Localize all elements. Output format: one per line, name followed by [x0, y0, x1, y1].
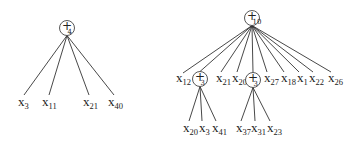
variable-index: 21 [90, 101, 99, 111]
tree-edge [24, 36, 67, 96]
variable-index: 3 [206, 127, 210, 137]
operator-arity: 3 [201, 79, 205, 87]
root-operator-node: +10 [245, 9, 262, 26]
variable-index: 1 [304, 77, 308, 87]
tree-edge [252, 26, 284, 73]
leaf-variable: x40 [108, 94, 123, 111]
variable-index: 41 [219, 127, 228, 137]
leaf-variable: x21 [216, 70, 231, 87]
variable-index: 11 [49, 101, 57, 111]
leaf-variable: x20 [232, 70, 247, 87]
tree-edge [67, 36, 89, 96]
leaf-variable: x41 [212, 120, 227, 137]
tree-edge [200, 87, 202, 122]
variable-index: 22 [316, 77, 325, 87]
variable-index: 18 [288, 77, 297, 87]
tree-edge [200, 87, 216, 122]
variable-index: 26 [335, 77, 344, 87]
root-operator-node: +4 [60, 19, 75, 36]
tree-edge [67, 36, 114, 96]
sub-operator-node: +3 [246, 71, 261, 88]
leaf-variable: x27 [264, 70, 279, 87]
leaf-variable: x11 [42, 94, 57, 111]
leaf-variable: x22 [309, 70, 324, 87]
tree-edge [252, 26, 313, 73]
leaf-variable: x23 [267, 120, 282, 137]
variable-index: 23 [274, 127, 283, 137]
leaf-variable: x3 [18, 94, 29, 111]
tree-edge [189, 87, 200, 122]
leaf-variable: x20 [183, 120, 198, 137]
variable-index: 31 [258, 127, 267, 137]
leaf-variable: x31 [251, 120, 266, 137]
variable-index: 12 [183, 77, 192, 87]
leaf-variable: x26 [328, 70, 343, 87]
variable-index: 37 [243, 127, 252, 137]
expression-tree-diagram: +4x3x11x21x40+10x12+3x20x3x41x21x20+3x37… [0, 0, 355, 142]
tree-edge [253, 88, 270, 122]
leaf-variable: x18 [281, 70, 296, 87]
leaf-variable: x21 [83, 94, 98, 111]
variable-index: 21 [223, 77, 232, 87]
tree-edge [241, 88, 253, 122]
leaf-variable: x37 [236, 120, 251, 137]
variable-index: 40 [115, 101, 124, 111]
leaf-variable: x1 [297, 70, 308, 87]
variable-index: 3 [25, 101, 29, 111]
tree-edge [253, 88, 255, 122]
leaf-variable: x3 [199, 120, 210, 137]
operator-arity: 4 [68, 28, 73, 36]
tree-edge [252, 26, 253, 73]
operator-arity: 10 [253, 18, 262, 26]
variable-index: 20 [190, 127, 199, 137]
variable-index: 27 [271, 77, 280, 87]
operator-arity: 3 [254, 80, 258, 88]
tree-edge [183, 26, 252, 74]
tree-edge [49, 36, 67, 96]
sub-operator-node: +3 [193, 70, 208, 87]
